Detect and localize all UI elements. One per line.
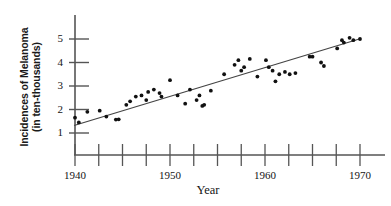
data-point (256, 75, 260, 79)
y-tick-label-5: 5 (49, 32, 63, 44)
x-tick-label-1970: 1970 (342, 169, 378, 181)
y-tick-label-4: 4 (49, 56, 63, 68)
data-point (222, 72, 226, 76)
data-point (264, 58, 268, 62)
x-tick-label-1960: 1960 (247, 169, 283, 181)
data-point (209, 89, 213, 93)
data-point (242, 65, 246, 69)
data-point (274, 79, 278, 83)
data-point (104, 115, 108, 119)
data-point (202, 103, 206, 107)
data-point (358, 37, 362, 41)
data-point (195, 98, 199, 102)
data-point (271, 69, 275, 73)
axes-group (69, 15, 385, 166)
data-point (117, 117, 121, 121)
data-point (198, 94, 202, 98)
data-point (248, 57, 252, 61)
x-axis-label: Year (178, 183, 238, 198)
data-point (311, 55, 315, 59)
data-point (288, 72, 292, 76)
data-point (322, 64, 326, 68)
data-point (134, 95, 138, 99)
data-point (73, 116, 77, 120)
data-point (183, 102, 187, 106)
data-point (335, 47, 339, 51)
x-tick-label-1940: 1940 (57, 169, 93, 181)
data-point (98, 109, 102, 113)
data-point (140, 94, 144, 98)
y-tick-label-1: 1 (49, 126, 63, 138)
data-point (348, 36, 352, 40)
data-point (342, 41, 346, 45)
data-point (267, 65, 271, 69)
data-point (294, 71, 298, 75)
data-point (237, 58, 241, 62)
data-point (188, 88, 192, 92)
data-point (351, 38, 355, 42)
data-point (176, 94, 180, 98)
data-point (152, 88, 156, 92)
melanoma-scatter-figure: Incidences of Melanoma (in ten-thousands… (0, 0, 391, 206)
data-points-group (73, 36, 362, 124)
y-tick-label-3: 3 (49, 79, 63, 91)
data-point (158, 91, 162, 95)
x-tick-label-1950: 1950 (152, 169, 188, 181)
data-point (128, 99, 132, 103)
data-point (168, 78, 172, 82)
data-point (77, 121, 81, 125)
data-point (283, 70, 287, 74)
y-tick-label-2: 2 (49, 103, 63, 115)
data-point (144, 98, 148, 102)
data-point (239, 69, 243, 73)
trend-line (74, 39, 361, 126)
data-point (85, 110, 89, 114)
data-point (233, 63, 237, 67)
data-point (146, 90, 150, 94)
trend-line-group (74, 39, 361, 126)
data-point (277, 72, 281, 76)
data-point (319, 61, 323, 65)
data-point (124, 103, 128, 107)
data-point (160, 95, 164, 99)
